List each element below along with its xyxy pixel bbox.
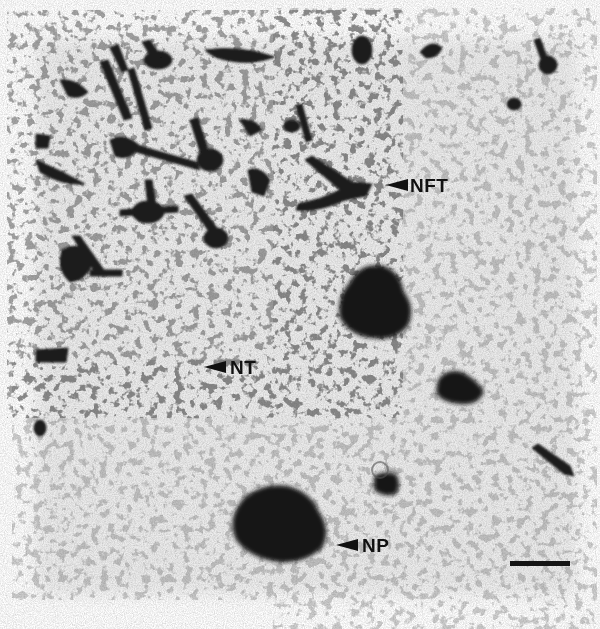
label-nft: NFT — [410, 176, 448, 195]
arrowhead-np — [336, 539, 358, 551]
label-nt: NT — [230, 358, 256, 377]
scale-bar — [510, 561, 570, 566]
arrowhead-nft — [386, 179, 408, 191]
label-np: NP — [362, 536, 389, 555]
micrograph-image — [0, 0, 600, 629]
micrograph-figure: NFT NT NP — [0, 0, 600, 629]
arrowhead-nt — [204, 361, 226, 373]
